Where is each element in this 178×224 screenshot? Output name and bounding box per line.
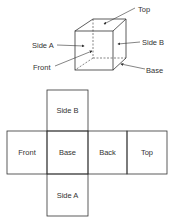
net-label-side-b: Side B	[56, 106, 78, 115]
net-label-back: Back	[99, 148, 116, 157]
label-front: Front	[33, 63, 51, 72]
arrow-base	[121, 64, 145, 69]
label-top: Top	[138, 5, 150, 14]
cube-diagram: Top Side A Side B Front Base Side B Fron…	[0, 0, 178, 224]
net-label-side-a: Side A	[57, 191, 79, 200]
net-label-front: Front	[18, 148, 36, 157]
cube-top-face	[75, 19, 126, 31]
label-side-b: Side B	[142, 38, 164, 47]
net-label-top: Top	[141, 148, 153, 157]
cube-front-face	[75, 31, 113, 70]
cube-right-face	[113, 19, 126, 70]
net-label-base: Base	[59, 148, 76, 157]
label-side-a: Side A	[32, 41, 54, 50]
label-base: Base	[146, 66, 163, 75]
arrow-side-a	[57, 45, 84, 46]
cube-hidden-edges	[75, 19, 126, 70]
cube-3d	[75, 19, 126, 70]
arrow-front	[55, 51, 92, 66]
leader-lines	[55, 8, 145, 69]
arrow-side-b	[118, 42, 140, 44]
arrow-top	[104, 8, 135, 24]
